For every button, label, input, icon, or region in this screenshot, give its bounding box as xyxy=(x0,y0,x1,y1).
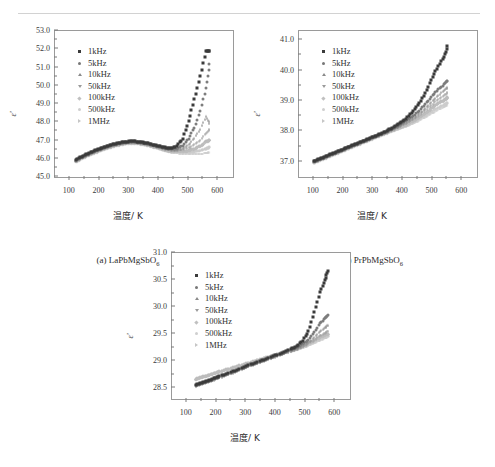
data-point xyxy=(425,89,428,92)
data-point xyxy=(193,98,196,101)
x-tick-label: 300 xyxy=(366,186,378,195)
x-tick-mark xyxy=(431,176,432,180)
y-tick-mark-minor xyxy=(54,93,57,94)
legend-label: 5kHz xyxy=(205,282,223,294)
data-point xyxy=(313,311,316,314)
data-point xyxy=(314,306,317,309)
data-point xyxy=(208,50,211,53)
x-tick-mark xyxy=(304,398,305,402)
y-tick-label: 30.5 xyxy=(153,275,171,284)
y-tick-mark-minor xyxy=(54,112,57,113)
y-tick-label: 29.0 xyxy=(153,356,171,365)
x-tick-mark xyxy=(334,398,335,402)
data-point xyxy=(308,325,311,328)
subfigure-c: ε' 温度/ K 1kHz5kHz10kHz50kHz100kHz500kHz1… xyxy=(125,244,365,462)
data-point xyxy=(320,287,323,290)
data-point xyxy=(200,68,203,71)
x-tick-mark-minor xyxy=(357,176,358,179)
x-tick-label: 500 xyxy=(182,186,194,195)
data-point xyxy=(307,330,310,333)
x-tick-mark xyxy=(372,176,373,180)
legend-item-1mhz[interactable]: 1MHz xyxy=(74,116,115,128)
x-tick-mark-minor xyxy=(113,176,114,179)
data-point xyxy=(422,94,425,97)
y-tick-mark xyxy=(54,84,58,85)
x-tick-mark xyxy=(274,398,275,402)
x-tick-mark-minor xyxy=(143,176,144,179)
legend-item-10khz[interactable]: 10kHz xyxy=(191,293,232,305)
legend-label: 100kHz xyxy=(332,92,359,104)
data-point xyxy=(187,120,190,123)
data-point xyxy=(186,124,189,127)
data-point xyxy=(419,99,422,102)
x-tick-mark xyxy=(187,176,188,180)
square-marker-icon xyxy=(74,50,85,53)
data-point xyxy=(203,56,206,59)
plot-area-c: ε' 温度/ K 1kHz5kHz10kHz50kHz100kHz500kHz1… xyxy=(125,244,365,428)
legend-item-50khz[interactable]: 50kHz xyxy=(191,305,232,317)
data-point xyxy=(199,127,201,130)
x-axis-label-c: 温度/ K xyxy=(125,431,365,444)
y-axis-label-a: ε' xyxy=(8,111,18,116)
legend-item-100khz[interactable]: 100kHz xyxy=(74,92,115,104)
x-tick-mark xyxy=(68,176,69,180)
y-tick-mark xyxy=(298,160,302,161)
legend-item-500khz[interactable]: 500kHz xyxy=(318,104,359,116)
data-point xyxy=(199,74,202,77)
legend-item-1mhz[interactable]: 1MHz xyxy=(318,116,359,128)
legend-item-50khz[interactable]: 50kHz xyxy=(318,81,359,93)
plot-area-b: ε' 温度/ K 1kHz5kHz10kHz50kHz100kHz500kHz1… xyxy=(252,22,492,206)
subfigure-b: ε' 温度/ K 1kHz5kHz10kHz50kHz100kHz500kHz1… xyxy=(252,22,492,234)
data-point xyxy=(321,284,324,287)
data-point xyxy=(184,129,187,132)
y-tick-label: 38.0 xyxy=(280,126,298,135)
y-tick-mark xyxy=(171,279,175,280)
light-circle-marker-icon xyxy=(74,108,85,111)
x-axis-label-b: 温度/ K xyxy=(252,209,492,222)
x-tick-label: 500 xyxy=(299,408,311,417)
data-point xyxy=(445,47,448,50)
header-rule xyxy=(18,13,480,14)
y-tick-mark xyxy=(298,69,302,70)
y-tick-mark xyxy=(171,252,175,253)
legend-item-5khz[interactable]: 5kHz xyxy=(74,58,115,70)
legend-item-10khz[interactable]: 10kHz xyxy=(318,69,359,81)
y-tick-label: 46.0 xyxy=(36,153,54,162)
legend-item-10khz[interactable]: 10kHz xyxy=(74,69,115,81)
light-circle-marker-icon xyxy=(191,332,202,335)
legend-item-100khz[interactable]: 100kHz xyxy=(318,92,359,104)
y-tick-mark xyxy=(171,360,175,361)
light-circle-marker-icon xyxy=(318,108,329,111)
legend-label: 1kHz xyxy=(88,46,106,58)
x-tick-label: 600 xyxy=(455,186,467,195)
y-tick-label: 47.0 xyxy=(36,135,54,144)
legend-item-500khz[interactable]: 500kHz xyxy=(191,328,232,340)
legend-item-100khz[interactable]: 100kHz xyxy=(191,316,232,328)
legend-label: 50kHz xyxy=(88,81,111,93)
legend-item-1khz[interactable]: 1kHz xyxy=(191,270,232,282)
data-point xyxy=(187,137,190,140)
legend-item-50khz[interactable]: 50kHz xyxy=(74,81,115,93)
data-point xyxy=(205,86,208,89)
y-tick-mark-minor xyxy=(54,39,57,40)
y-tick-label: 30.0 xyxy=(153,302,171,311)
y-tick-mark-minor xyxy=(298,145,301,146)
legend-item-5khz[interactable]: 5kHz xyxy=(191,282,232,294)
legend-label: 10kHz xyxy=(205,293,228,305)
data-point xyxy=(206,80,209,83)
legend-item-1khz[interactable]: 1kHz xyxy=(74,46,115,58)
data-point xyxy=(428,82,431,85)
data-point xyxy=(430,79,433,82)
legend-item-1mhz[interactable]: 1MHz xyxy=(191,340,232,352)
legend-item-5khz[interactable]: 5kHz xyxy=(318,58,359,70)
data-point xyxy=(444,50,447,53)
legend-item-500khz[interactable]: 500kHz xyxy=(74,104,115,116)
y-tick-mark xyxy=(171,333,175,334)
y-tick-mark-minor xyxy=(54,75,57,76)
y-tick-label: 41.0 xyxy=(280,35,298,44)
y-tick-label: 39.0 xyxy=(280,95,298,104)
data-point xyxy=(197,80,200,83)
legend-item-1khz[interactable]: 1kHz xyxy=(318,46,359,58)
x-tick-mark-minor xyxy=(327,176,328,179)
y-tick-label: 49.0 xyxy=(36,99,54,108)
